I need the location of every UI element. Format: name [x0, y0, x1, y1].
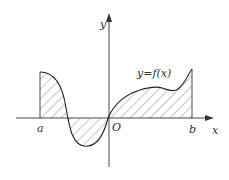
- interval-right-label: b: [189, 123, 196, 136]
- function-label: y=f(x): [136, 67, 171, 80]
- y-axis-label: y: [99, 18, 107, 31]
- x-axis-arrow-icon: [205, 115, 214, 121]
- x-axis-label: x: [212, 124, 219, 137]
- origin-label: O: [112, 121, 121, 134]
- y-axis-arrow-icon: [106, 13, 112, 22]
- y-axis: [106, 13, 112, 167]
- integral-diagram: y x O a b y=f(x): [0, 0, 229, 180]
- interval-left-label: a: [37, 122, 44, 135]
- shaded-area: [30, 60, 200, 160]
